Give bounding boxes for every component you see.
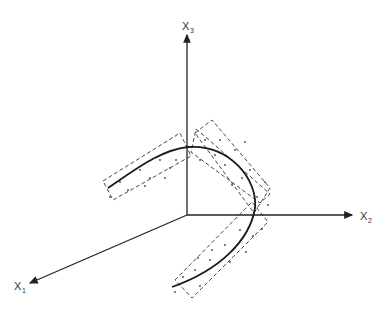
axes	[30, 35, 352, 283]
svg-text:3: 3	[190, 27, 194, 34]
x2-label: X 2	[360, 210, 372, 224]
svg-text:1: 1	[22, 287, 26, 294]
x1-label: X 1	[14, 280, 26, 294]
center-box	[195, 120, 270, 213]
x1-axis	[30, 215, 187, 283]
svg-text:X: X	[360, 210, 368, 222]
upper-right-box	[191, 129, 270, 203]
left-box	[103, 133, 191, 200]
svg-text:X: X	[14, 280, 22, 292]
x3-label: X 3	[182, 20, 194, 34]
svg-text:X: X	[182, 20, 190, 32]
svg-text:2: 2	[368, 217, 372, 224]
diagram-canvas: X 3 X 2 X 1	[0, 0, 390, 314]
